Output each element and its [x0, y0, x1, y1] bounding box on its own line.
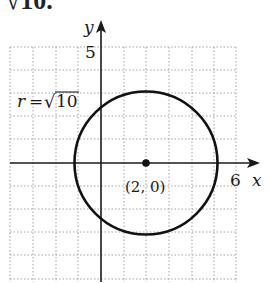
radius-r: r: [17, 91, 26, 111]
axes: [10, 20, 260, 282]
sqrt-icon: √: [44, 91, 56, 112]
center-point-label: (2, 0): [125, 178, 165, 196]
y-tick-label: 5: [85, 42, 96, 62]
y-axis-label: y: [83, 17, 94, 37]
radius-equals: =: [29, 91, 43, 111]
grid: [10, 47, 236, 282]
circle-graph: y 5 6 x (2, 0) r = √ 10: [0, 0, 270, 283]
x-tick-label: 6: [230, 170, 241, 190]
center-point: [142, 159, 150, 167]
x-axis-label: x: [252, 170, 262, 190]
radius-label: r = √ 10: [17, 91, 79, 112]
radius-value: 10: [56, 91, 78, 111]
